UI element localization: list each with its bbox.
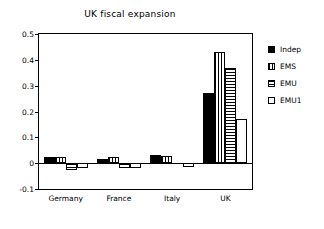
bar-germany-indep bbox=[44, 157, 55, 163]
bar-france-indep bbox=[97, 159, 108, 164]
legend-item-emu[interactable]: EMU bbox=[268, 76, 324, 91]
legend-swatch-indep-icon bbox=[268, 46, 275, 53]
y-tick-mark bbox=[35, 189, 39, 190]
bar-uk-emu bbox=[225, 68, 236, 164]
chart-title: UK fiscal expansion bbox=[0, 9, 260, 19]
x-axis-label: Germany bbox=[48, 194, 82, 203]
y-tick-label: 0.1 bbox=[22, 133, 34, 142]
legend-swatch-emu-icon bbox=[268, 80, 275, 87]
bar-uk-indep bbox=[203, 93, 214, 163]
legend-swatch-ems-icon bbox=[268, 63, 275, 70]
bar-germany-emu bbox=[66, 163, 77, 169]
legend-label: Indep bbox=[280, 45, 301, 54]
bar-italy-ems bbox=[161, 156, 172, 163]
x-axis-label: UK bbox=[220, 194, 230, 203]
y-tick-mark bbox=[35, 60, 39, 61]
bar-germany-emu1 bbox=[77, 163, 88, 168]
x-axis-label: France bbox=[106, 194, 131, 203]
legend-label: EMU1 bbox=[280, 96, 301, 105]
y-tick-mark bbox=[35, 34, 39, 35]
y-tick-mark bbox=[35, 137, 39, 138]
legend-item-ems[interactable]: EMS bbox=[268, 59, 324, 74]
bar-italy-indep bbox=[150, 155, 161, 163]
legend-item-emu1[interactable]: EMU1 bbox=[268, 93, 324, 108]
legend-item-indep[interactable]: Indep bbox=[268, 42, 324, 57]
bar-france-ems bbox=[108, 157, 119, 163]
bar-france-emu bbox=[119, 163, 130, 168]
y-tick-label: 0.3 bbox=[22, 81, 34, 90]
y-tick-label: 0.5 bbox=[22, 30, 34, 39]
y-tick-mark bbox=[35, 112, 39, 113]
y-tick-label: -0.1 bbox=[19, 185, 34, 194]
legend-swatch-emu1-icon bbox=[268, 97, 275, 104]
bar-germany-ems bbox=[55, 157, 66, 163]
y-tick-mark bbox=[35, 163, 39, 164]
chart-legend: IndepEMSEMUEMU1 bbox=[268, 42, 324, 110]
bar-italy-emu1 bbox=[183, 163, 194, 167]
y-tick-mark bbox=[35, 86, 39, 87]
chart-figure: UK fiscal expansion -0.100.10.20.30.40.5… bbox=[0, 0, 324, 229]
y-tick-label: 0.2 bbox=[22, 107, 34, 116]
y-tick-label: 0.4 bbox=[22, 55, 34, 64]
plot-area: -0.100.10.20.30.40.5 GermanyFranceItalyU… bbox=[39, 34, 252, 189]
bar-france-emu1 bbox=[130, 163, 141, 168]
x-axis-label: Italy bbox=[164, 194, 180, 203]
y-tick-label: 0 bbox=[29, 159, 34, 168]
bar-uk-emu1 bbox=[236, 119, 247, 163]
legend-label: EMS bbox=[280, 62, 296, 71]
bar-uk-ems bbox=[214, 52, 225, 163]
legend-label: EMU bbox=[280, 79, 297, 88]
